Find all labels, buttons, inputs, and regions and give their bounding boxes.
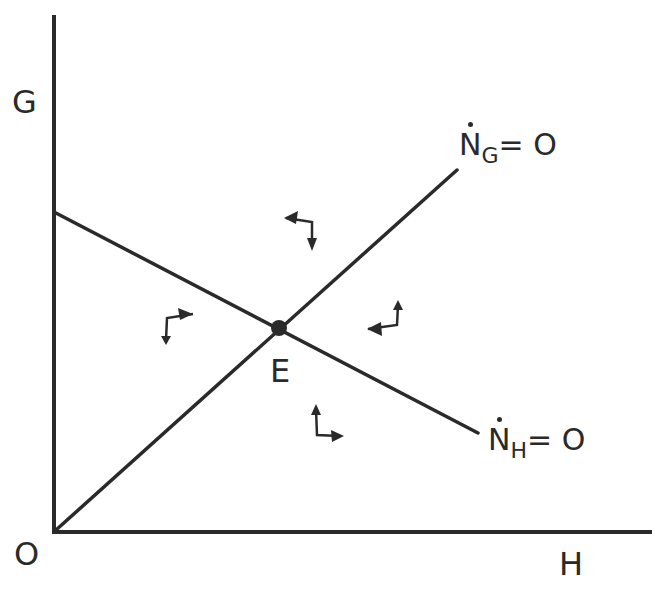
ng-locus-line	[56, 170, 457, 530]
nh-equals: = O	[527, 422, 585, 457]
nh-subscript: H	[510, 438, 527, 463]
nh-symbol: N	[488, 425, 510, 455]
nh-locus-line	[54, 212, 478, 433]
direction-arrow-bottom	[311, 404, 344, 442]
equilibrium-point	[271, 320, 287, 336]
equilibrium-label: E	[270, 355, 290, 387]
x-axis-label: H	[559, 548, 583, 580]
phase-diagram	[0, 0, 660, 602]
origin-label: O	[14, 538, 39, 570]
ng-equals: = O	[499, 127, 557, 162]
ng-subscript: G	[481, 143, 498, 168]
ng-locus-label: NG= O	[459, 130, 557, 160]
direction-arrow-left	[161, 308, 193, 345]
ng-symbol: N	[459, 130, 481, 160]
direction-arrow-top	[284, 211, 317, 251]
y-axis-label: G	[12, 86, 37, 118]
nh-locus-label: NH= O	[488, 425, 585, 455]
direction-arrow-right	[367, 300, 403, 336]
